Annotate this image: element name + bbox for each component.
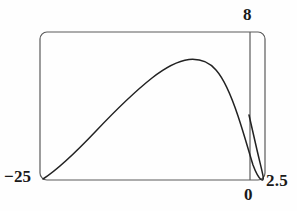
plot-figure: 8 −25 0 2.5 xyxy=(0,0,297,211)
plot-frame xyxy=(40,32,265,180)
zero-label: 0 xyxy=(244,186,253,203)
y-max-label: 8 xyxy=(243,6,252,23)
x-min-label: −25 xyxy=(4,168,31,185)
plot-canvas xyxy=(0,0,297,211)
x-max-label: 2.5 xyxy=(266,172,288,189)
plot-curve xyxy=(43,59,263,180)
